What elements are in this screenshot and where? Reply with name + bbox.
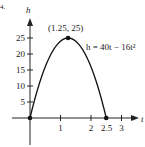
x-tick-label: 1 (58, 123, 63, 133)
x-axis-arrow-icon (131, 115, 139, 121)
y-tick-label: 10 (16, 81, 26, 91)
figure-marker: 4. (0, 3, 6, 11)
y-tick-label: 20 (16, 49, 26, 59)
vertex-point (66, 36, 71, 41)
y-tick-label: 15 (16, 65, 26, 75)
y-tick-label: 5 (21, 97, 26, 107)
vertex-label: (1.25, 25) (48, 23, 83, 33)
equation-label: h = 40t − 16t² (86, 42, 136, 52)
x-tick-label: 3 (119, 123, 124, 133)
root-point (104, 116, 109, 121)
x-tick-label: 2 (89, 123, 94, 133)
y-axis-label: h (26, 5, 31, 15)
x-tick-label: 2.5 (101, 123, 113, 133)
origin-point (28, 116, 33, 121)
y-tick-label: 25 (16, 33, 26, 43)
parabola-chart: 1 2 2.5 3 5 10 15 20 25 h t 4. (1.25, 25… (0, 0, 145, 147)
x-axis-label: t (141, 114, 144, 124)
y-axis-arrow-icon (27, 18, 33, 26)
